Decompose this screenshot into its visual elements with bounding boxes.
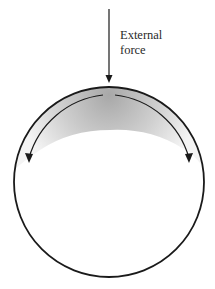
force-label-line2: force bbox=[120, 43, 162, 58]
right-arrowhead-icon bbox=[185, 153, 193, 163]
shaded-region bbox=[14, 80, 204, 170]
force-arrowhead-icon bbox=[106, 75, 113, 83]
diagram-canvas bbox=[0, 0, 215, 289]
force-label: External force bbox=[120, 28, 162, 58]
force-label-line1: External bbox=[120, 28, 162, 43]
